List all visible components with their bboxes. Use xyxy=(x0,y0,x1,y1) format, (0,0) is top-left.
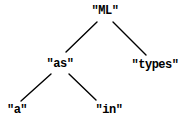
edge-ml-as xyxy=(66,22,97,52)
edge-as-in xyxy=(69,74,96,100)
node-as: "as" xyxy=(47,58,74,70)
edge-ml-types xyxy=(113,22,146,55)
tree-diagram: "ML" "as" "types" "a" "in" xyxy=(0,0,193,125)
node-a: "a" xyxy=(7,104,27,116)
node-ml: "ML" xyxy=(92,5,119,17)
node-in: "in" xyxy=(96,104,123,116)
edge-as-a xyxy=(21,74,51,101)
node-types: "types" xyxy=(132,59,179,71)
